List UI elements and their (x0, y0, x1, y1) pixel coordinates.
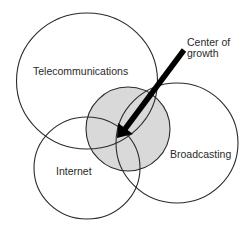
center-of-growth-label-line2: growth (187, 47, 219, 59)
internet-label: Internet (56, 165, 92, 177)
diagram-svg: Telecommunications Internet Broadcasting… (0, 0, 249, 227)
telecommunications-label: Telecommunications (33, 65, 128, 77)
venn-diagram: Telecommunications Internet Broadcasting… (0, 0, 249, 227)
broadcasting-label: Broadcasting (170, 148, 231, 160)
